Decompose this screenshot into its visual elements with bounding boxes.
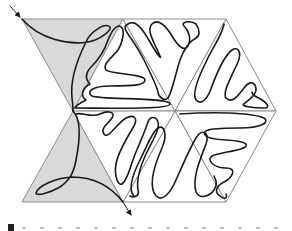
exit-arrow-icon [123, 202, 131, 215]
entry-arrow-icon [10, 6, 20, 17]
caption-strip: 7 [8, 224, 292, 231]
caption-figure-number-mark [8, 224, 14, 231]
caption-text-cropped [22, 227, 292, 229]
hexagon-diagram [0, 0, 292, 231]
